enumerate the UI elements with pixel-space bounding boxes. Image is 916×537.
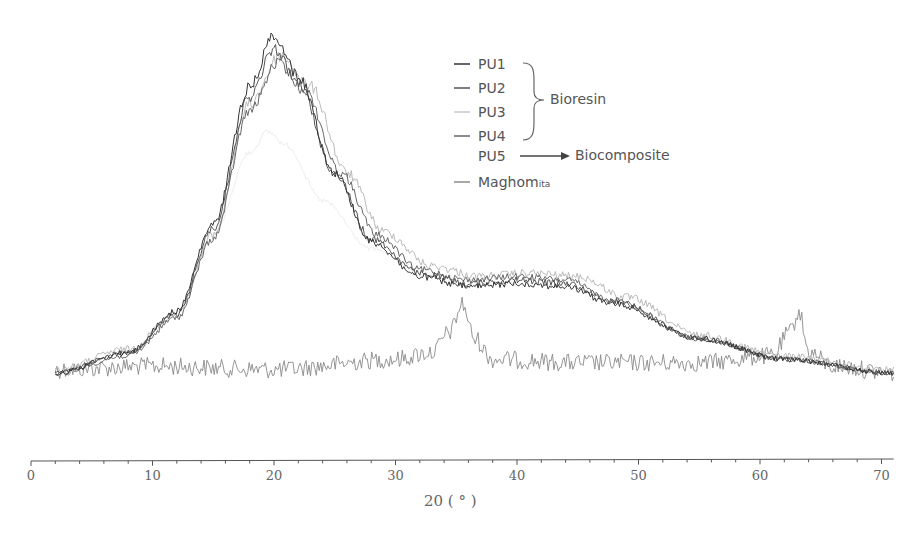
- plot-series: [55, 33, 893, 381]
- series-pu5: [128, 130, 516, 353]
- x-axis-title: 20 ( ° ): [424, 492, 477, 510]
- legend-label-pu2: PU2: [478, 80, 506, 96]
- x-tick-label: 10: [144, 468, 161, 483]
- x-axis-line: [31, 459, 894, 461]
- xrd-chart: 010203040506070 20 ( ° ) PU1PU2PU3PU4PU5…: [0, 0, 916, 537]
- x-tick-label: 70: [873, 468, 890, 483]
- x-tick-label: 20: [266, 468, 283, 483]
- series-pu2: [55, 45, 893, 376]
- legend-label-pu4: PU4: [478, 128, 506, 144]
- legend-label-maghom: Maghomita: [478, 174, 550, 190]
- x-tick-label: 40: [509, 468, 526, 483]
- x-tick-label: 60: [752, 468, 769, 483]
- series-pu1: [55, 33, 893, 375]
- x-tick-label: 30: [387, 468, 404, 483]
- arrow-right-icon: [561, 152, 570, 160]
- series-pu4: [55, 58, 893, 375]
- x-tick-label: 0: [27, 468, 35, 483]
- series-pu3: [55, 52, 893, 372]
- legend-label-pu1: PU1: [478, 56, 506, 72]
- x-axis: 010203040506070: [27, 459, 894, 483]
- biocomposite-label: Biocomposite: [575, 147, 670, 163]
- bioresin-label: Bioresin: [550, 91, 606, 107]
- x-tick-label: 50: [630, 468, 647, 483]
- legend-label-pu3: PU3: [478, 104, 506, 120]
- bioresin-brace-icon: [523, 63, 544, 140]
- legend-label-pu5: PU5: [478, 148, 506, 164]
- legend: PU1PU2PU3PU4PU5Maghomita Bioresin Biocom…: [454, 56, 670, 190]
